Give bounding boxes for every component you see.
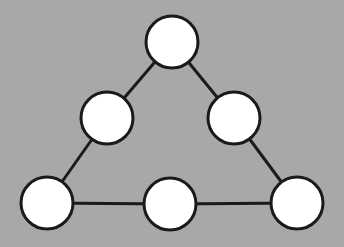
node-top (146, 16, 198, 68)
node-mid-right (208, 92, 260, 144)
node-bottom-right (271, 177, 323, 229)
node-bottom-middle (144, 178, 196, 230)
node-mid-left (81, 92, 133, 144)
node-bottom-left (21, 177, 73, 229)
triangle-graph-diagram (0, 0, 344, 247)
